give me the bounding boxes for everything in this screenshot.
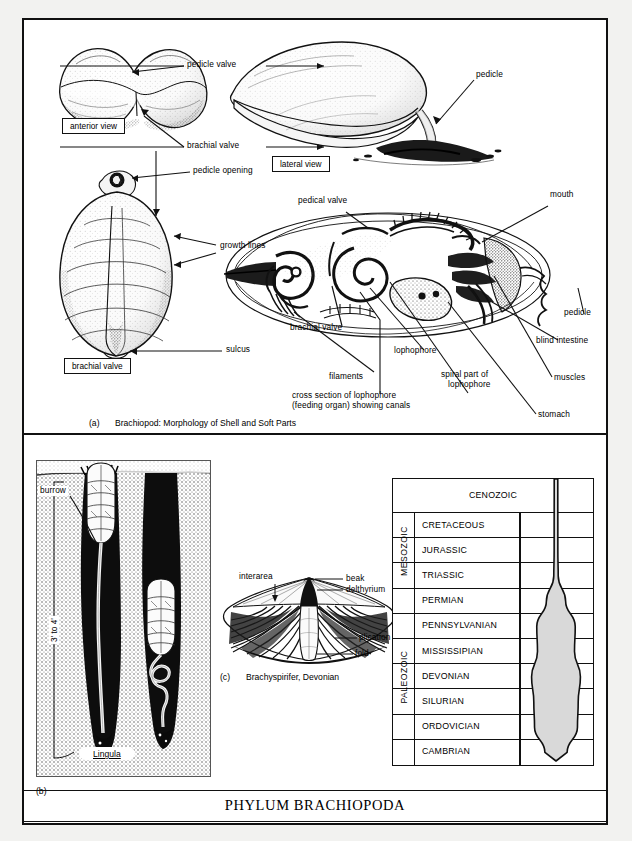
boxed-label-brachial-valve: brachial valve [64,358,131,374]
label-plication: plication [359,633,390,643]
panel-c-caption: (c)Brachyspirifer, Devonian [220,672,339,682]
label-brachial-valve-top: brachial valve [187,141,239,151]
label-cross-section-line2: (feeding organ) showing canals [292,401,410,411]
geo-era-paleozoic: PALEOZOIC [393,589,415,765]
label-pedicle-valve: pedicle valve [187,60,236,70]
geologic-range-chart: CENOZOICCRETACEOUSJURASSICTRIASSICPERMIA… [392,478,594,766]
geo-period-silurian: SILURIAN [422,696,464,706]
label-pedicle-opening: pedicle opening [193,166,253,176]
panel-a-leaders [24,20,606,436]
label-burrow: burrow [38,486,68,496]
label-pedicle-cutaway: pedicle [564,308,591,318]
panel-a-leader-svg [24,20,606,436]
plate-title-banner: PHYLUM BRACHIOPODA [24,790,606,822]
panel-a-caption-id: (a) [89,418,115,428]
label-beak: beak [346,574,364,584]
geo-era-label: PALEOZOIC [399,650,409,703]
label-filaments: filaments [329,372,363,382]
label-interarea: interarea [239,572,273,582]
label-sulcus: sulcus [226,345,250,355]
label-lingula: Lingula [79,747,135,760]
label-burrow-depth: 3' to 4' [49,616,59,644]
geo-era-mesozoic: MESOZOIC [393,513,415,589]
label-spiral-part-line2: lophophore [448,380,491,390]
label-fold: fold [355,649,369,659]
panel-c-caption-id: (c) [220,672,246,682]
boxed-label-anterior-view: anterior view [62,118,125,134]
geo-period-mississipian: MISSISSIPIAN [422,646,483,656]
label-brachial-valve-cutaway: brachial valve [290,323,342,333]
label-mouth: mouth [550,190,574,200]
label-pedical-valve: pedical valve [298,196,347,206]
label-pedicle-lateral: pedicle [476,70,503,80]
geo-period-devonian: DEVONIAN [422,671,470,681]
label-delthyrium: delthyrium [346,585,385,595]
geo-period-pennsylvanian: PENNSYLVANIAN [422,620,497,630]
page-background: pedicle valve brachial valve pedicle ope… [0,0,632,841]
geo-plot-divider [519,513,521,765]
label-blind-intestine: blind intestine [536,336,588,346]
panel-c-caption-text: Brachyspirifer, Devonian [246,672,339,682]
geo-period-cretaceous: CRETACEOUS [422,520,484,530]
label-growth-lines: growth lines [220,241,265,251]
geo-period-triassic: TRIASSIC [422,570,464,580]
lingula-genus: Lingula [93,749,121,759]
label-lophophore: lophophore [394,346,437,356]
panel-divider [24,433,606,435]
geo-period-cenozoic: CENOZOIC [393,490,593,500]
geo-period-cambrian: CAMBRIAN [422,746,470,756]
geo-period-permian: PERMIAN [422,595,463,605]
label-stomach: stomach [538,410,570,420]
geo-period-jurassic: JURASSIC [422,545,467,555]
label-muscles: muscles [554,373,585,383]
geo-era-label: MESOZOIC [399,526,409,576]
plate-inner: pedicle valve brachial valve pedicle ope… [24,20,606,823]
figure-plate: pedicle valve brachial valve pedicle ope… [22,18,608,825]
boxed-label-lateral-view: lateral view [272,156,330,172]
panel-a-caption-text: Brachiopod: Morphology of Shell and Soft… [115,418,296,428]
panel-a-caption: (a)Brachiopod: Morphology of Shell and S… [89,418,296,428]
geo-period-ordovician: ORDOVICIAN [422,721,480,731]
plate-title: PHYLUM BRACHIOPODA [24,791,606,821]
